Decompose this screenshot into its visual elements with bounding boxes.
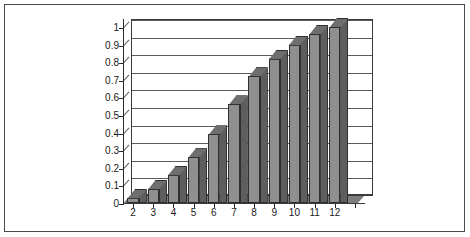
x-tick-label: 5 <box>191 208 197 218</box>
y-tick-mark <box>119 151 124 152</box>
y-tick-mark <box>119 98 124 99</box>
bar[interactable] <box>127 189 138 203</box>
x-tick-mark-empty <box>355 204 356 208</box>
bar-front-face <box>309 34 320 203</box>
y-tick-mark <box>119 46 124 47</box>
bar-front-face <box>188 157 199 203</box>
y-tick-label: 0.8 <box>105 58 119 68</box>
y-tick-mark <box>119 81 124 82</box>
x-tick-label: 10 <box>289 208 300 218</box>
bar-front-face <box>269 59 280 203</box>
bar-front-face <box>148 189 159 203</box>
bar[interactable] <box>168 166 179 203</box>
bar[interactable] <box>309 25 320 203</box>
chart-frame: 00.10.20.30.40.50.60.70.80.91 2345678910… <box>4 4 465 232</box>
y-axis-line <box>123 19 124 204</box>
bar-side-face <box>340 18 348 203</box>
bar-front-face <box>228 104 239 203</box>
y-axis-back-line <box>131 19 132 195</box>
bar[interactable] <box>208 125 219 203</box>
bar-front-face <box>329 27 340 203</box>
x-tick-label: 11 <box>309 208 319 218</box>
bar[interactable] <box>248 67 259 203</box>
bar-side-face <box>240 95 248 203</box>
x-tick-label: 2 <box>130 208 136 218</box>
y-tick-mark <box>119 116 124 117</box>
bar-front-face <box>289 45 300 203</box>
x-tick-label: 7 <box>231 208 237 218</box>
y-tick-label: 0.3 <box>105 146 119 156</box>
y-tick-mark <box>119 134 124 135</box>
bar[interactable] <box>329 18 340 203</box>
bar-front-face <box>208 134 219 203</box>
y-tick-label: 0 <box>113 199 119 209</box>
x-tick-label: 8 <box>251 208 257 218</box>
floor-front-edge <box>123 203 365 204</box>
y-tick-mark <box>119 169 124 170</box>
x-tick-label: 12 <box>329 208 340 218</box>
y-tick-mark <box>119 28 124 29</box>
bar[interactable] <box>188 148 199 203</box>
y-tick-label: 0.9 <box>105 41 119 51</box>
bar-side-face <box>219 125 227 203</box>
y-tick-mark <box>119 186 124 187</box>
x-tick-label: 6 <box>211 208 217 218</box>
y-tick-mark <box>119 204 124 205</box>
bar[interactable] <box>228 95 239 203</box>
x-tick-label: 9 <box>271 208 277 218</box>
bar-side-face <box>280 50 288 203</box>
bar-side-face <box>300 36 308 203</box>
x-tick-label: 3 <box>150 208 156 218</box>
y-tick-label: 0.2 <box>105 164 119 174</box>
bar[interactable] <box>269 50 280 203</box>
bar-side-face <box>320 25 328 203</box>
plot-area: 00.10.20.30.40.50.60.70.80.91 2345678910… <box>123 19 373 203</box>
y-tick-label: 0.6 <box>105 93 119 103</box>
bar-front-face <box>248 76 259 203</box>
y-tick-mark <box>119 63 124 64</box>
y-tick-label: 0.7 <box>105 76 119 86</box>
x-tick-label: 4 <box>171 208 177 218</box>
y-tick-label: 1 <box>113 23 119 33</box>
y-tick-label: 0.5 <box>105 111 119 121</box>
bar-side-face <box>260 67 268 203</box>
bar[interactable] <box>289 36 300 203</box>
bar[interactable] <box>148 180 159 203</box>
y-tick-label: 0.4 <box>105 129 119 139</box>
y-tick-label: 0.1 <box>105 181 119 191</box>
bar-front-face <box>168 175 179 203</box>
